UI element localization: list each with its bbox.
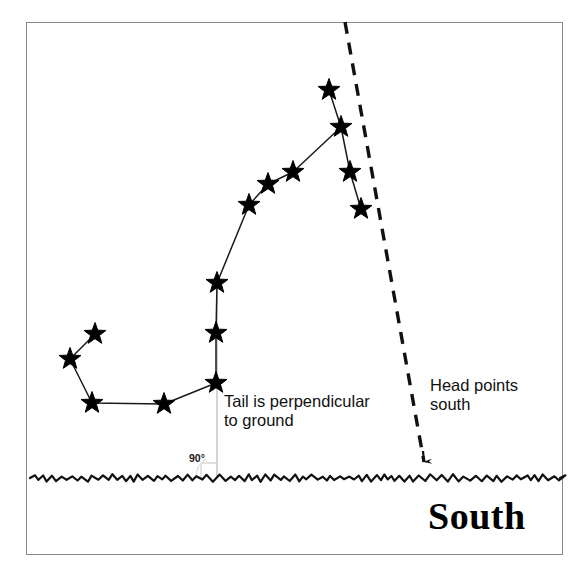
head-points-south-annotation: Head points south — [430, 376, 560, 414]
figure-page: Tail is perpendicular to ground Head poi… — [0, 0, 588, 578]
right-angle-label: 90° — [189, 452, 205, 464]
figure-frame — [26, 22, 563, 555]
south-direction-label: South — [428, 494, 526, 538]
tail-perpendicular-annotation: Tail is perpendicular to ground — [224, 392, 429, 430]
